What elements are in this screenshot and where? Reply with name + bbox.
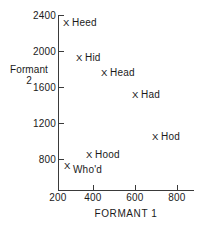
y-axis-tick-label: 2400 [33, 11, 56, 21]
x-marker-icon: X [101, 67, 107, 78]
x-marker-icon: X [76, 52, 82, 63]
x-marker-icon: X [63, 17, 69, 28]
x-axis-tick-label: 200 [43, 193, 73, 203]
data-point-had: X Had [132, 90, 160, 100]
data-point-label: Had [141, 89, 160, 100]
data-point-head: X Head [101, 68, 135, 78]
y-axis-title-line2: 2 [2, 75, 56, 86]
x-axis-tick [177, 185, 178, 190]
x-axis-tick-label: 600 [120, 193, 150, 203]
y-axis-tick [59, 123, 64, 124]
y-axis-line [58, 15, 59, 191]
data-point-label: Heed [72, 17, 97, 28]
y-axis-tick [59, 51, 64, 52]
x-marker-icon: X [132, 89, 138, 100]
y-axis-tick-label: 2000 [33, 47, 56, 57]
x-axis-tick [135, 185, 136, 190]
y-axis-title-line1: Formant [10, 64, 48, 75]
x-marker-icon: X [86, 149, 92, 160]
data-point-label: Who'd [73, 164, 102, 175]
data-point-heed: X Heed [63, 18, 97, 28]
y-axis-tick-label: 1200 [33, 119, 56, 129]
vowel-formant-scatter-chart: 2400 2000 1600 1200 800 200 400 600 800 … [0, 0, 202, 233]
data-point-whod: X Who'd [64, 165, 102, 175]
data-point-label: Hod [161, 131, 180, 142]
data-point-label: Hid [85, 52, 101, 63]
data-point-label: Head [110, 67, 135, 78]
y-axis-title: Formant 2 [2, 64, 56, 86]
x-axis-title: FORMANT 1 [58, 209, 194, 219]
x-axis-tick [93, 185, 94, 190]
x-marker-icon: X [64, 160, 70, 171]
data-point-hid: X Hid [76, 53, 101, 63]
x-axis-tick-label: 800 [162, 193, 192, 203]
data-point-hood: X Hood [86, 150, 120, 160]
y-axis-tick-label: 800 [39, 155, 56, 165]
x-marker-icon: X [152, 131, 158, 142]
y-axis-tick [59, 87, 64, 88]
data-point-hod: X Hod [152, 132, 180, 142]
data-point-label: Hood [95, 149, 120, 160]
x-axis-tick-label: 400 [78, 193, 108, 203]
